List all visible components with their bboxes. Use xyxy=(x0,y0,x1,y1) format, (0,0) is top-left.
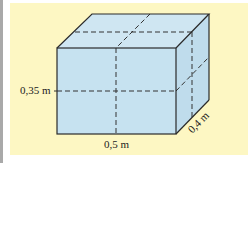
height-label: 0,35 m xyxy=(20,85,51,96)
width-label: 0,5 m xyxy=(104,139,129,150)
